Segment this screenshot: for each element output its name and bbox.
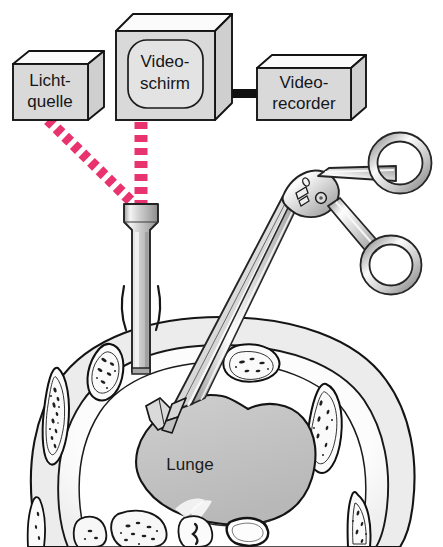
scope-shaft-shadow bbox=[145, 232, 149, 370]
light-source-box[interactable]: Licht- quelle bbox=[13, 51, 104, 120]
light-source-label-line1: Licht- bbox=[29, 71, 71, 90]
video-recorder-top-face bbox=[257, 55, 366, 68]
video-monitor-side-face bbox=[215, 14, 232, 120]
scope-shaft-highlight bbox=[135, 232, 139, 370]
light-source-side-face bbox=[88, 51, 104, 120]
light-source-label-line2: quelle bbox=[27, 92, 72, 111]
video-monitor-top-face bbox=[116, 14, 232, 31]
video-recorder-label-line2: recorder bbox=[272, 94, 336, 113]
video-monitor-label-line1: Video- bbox=[141, 52, 190, 71]
video-monitor-box[interactable]: Video- schirm bbox=[116, 14, 232, 120]
thoracoscopy-diagram: Lunge bbox=[0, 0, 443, 547]
scope-tip bbox=[132, 368, 150, 374]
rib bbox=[223, 344, 279, 382]
video-monitor-label-line2: schirm bbox=[140, 74, 190, 93]
monitor-to-recorder-cable bbox=[231, 89, 260, 98]
video-recorder-label-line1: Video- bbox=[280, 73, 329, 92]
lung-label: Lunge bbox=[166, 455, 213, 474]
forceps-pivot-screw-center bbox=[319, 196, 323, 200]
aorta-lumen bbox=[232, 523, 263, 541]
video-recorder-box[interactable]: Video- recorder bbox=[257, 55, 366, 120]
